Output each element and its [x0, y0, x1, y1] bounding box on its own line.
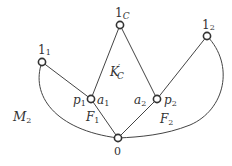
edge-1_1-a1 — [42, 62, 91, 99]
label-1_1: 11 — [38, 43, 51, 57]
label-1_2: 12 — [202, 18, 215, 32]
node-1_2 — [203, 32, 210, 39]
label-a2: a2 — [134, 93, 146, 108]
edge-1c-a1 — [91, 25, 120, 99]
nodes — [38, 21, 210, 141]
region-label-f1: F1 — [85, 110, 99, 125]
edge-1c-a2 — [120, 25, 157, 99]
node-0 — [114, 134, 121, 141]
edges — [39, 25, 223, 138]
region-label-k-c-prime: K′C — [109, 63, 124, 81]
label-0: 0 — [114, 145, 121, 158]
region-label-m2: M2 — [12, 109, 31, 125]
region-label-f2: F2 — [159, 112, 173, 127]
lattice-diagram: 1C 11 12 p1 a1 a2 p2 0 K′C F1 F2 M2 — [0, 0, 232, 166]
edge-1_2-a2 — [157, 36, 207, 99]
label-p1: p1 — [73, 93, 86, 108]
label-a1: a1 — [97, 93, 109, 108]
node-1_1 — [38, 58, 45, 65]
label-1c: 1C — [115, 6, 130, 21]
node-a2p2 — [153, 95, 160, 102]
label-p2: p2 — [164, 93, 177, 108]
node-a1p1 — [87, 95, 94, 102]
node-1c — [116, 21, 123, 28]
